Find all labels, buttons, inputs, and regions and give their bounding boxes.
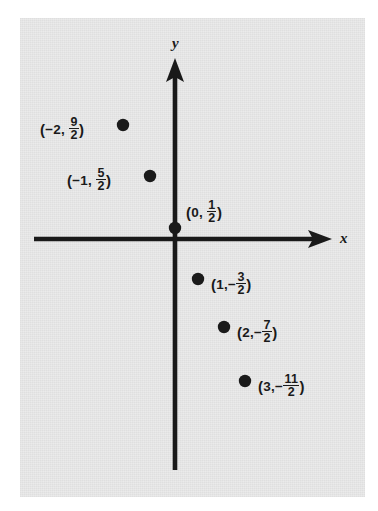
fraction-denominator: 2 <box>283 386 299 399</box>
label-close-paren: ) <box>272 325 277 340</box>
fraction-denominator: 2 <box>96 180 105 193</box>
label-close-paren: ) <box>300 379 305 394</box>
label-x-value: 2, <box>242 326 254 340</box>
label-close-paren: ) <box>217 205 222 220</box>
point-label-zero: (0, 12) <box>186 199 222 226</box>
label-x-value: 3, <box>263 380 275 394</box>
data-point-neg1 <box>144 170 156 182</box>
label-sign: − <box>254 326 262 340</box>
x-axis-label: x <box>340 231 348 246</box>
fraction-numerator: 11 <box>283 373 299 387</box>
label-close-paren: ) <box>106 173 111 188</box>
data-point-neg2 <box>117 119 129 131</box>
data-point-one <box>192 273 204 285</box>
figure-coordinate-plane: y x (−2, 92) (−1, 52) (0, 12) (1,−32) (2… <box>0 0 378 511</box>
label-fraction: 92 <box>69 116 78 143</box>
fraction-denominator: 2 <box>262 332 271 345</box>
fraction-numerator: 3 <box>236 271 245 285</box>
label-fraction: 112 <box>283 373 299 400</box>
point-label-one: (1,−32) <box>211 271 251 298</box>
label-close-paren: ) <box>79 122 84 137</box>
axes-and-points-svg <box>0 0 378 511</box>
data-point-two <box>218 321 230 333</box>
label-sign: − <box>228 278 236 292</box>
fraction-numerator: 9 <box>69 116 78 130</box>
point-label-three: (3,−112) <box>258 373 305 400</box>
label-fraction: 32 <box>236 271 245 298</box>
label-sign: − <box>275 380 283 394</box>
data-point-three <box>239 375 251 387</box>
label-x-value: 1, <box>216 278 228 292</box>
point-label-two: (2,−72) <box>237 319 277 346</box>
point-label-neg2: (−2, 92) <box>40 116 84 143</box>
label-close-paren: ) <box>246 277 251 292</box>
point-label-neg1: (−1, 52) <box>67 167 111 194</box>
fraction-denominator: 2 <box>207 212 216 225</box>
label-fraction: 12 <box>207 199 216 226</box>
fraction-numerator: 7 <box>262 319 271 333</box>
label-x-value: −1, <box>72 174 92 188</box>
fraction-numerator: 5 <box>96 167 105 181</box>
y-axis-label: y <box>172 36 179 51</box>
data-point-zero <box>169 222 181 234</box>
fraction-denominator: 2 <box>236 284 245 297</box>
label-fraction: 72 <box>262 319 271 346</box>
fraction-numerator: 1 <box>207 199 216 213</box>
label-x-value: −2, <box>45 123 65 137</box>
label-x-value: 0, <box>191 206 203 220</box>
fraction-denominator: 2 <box>69 129 78 142</box>
label-fraction: 52 <box>96 167 105 194</box>
